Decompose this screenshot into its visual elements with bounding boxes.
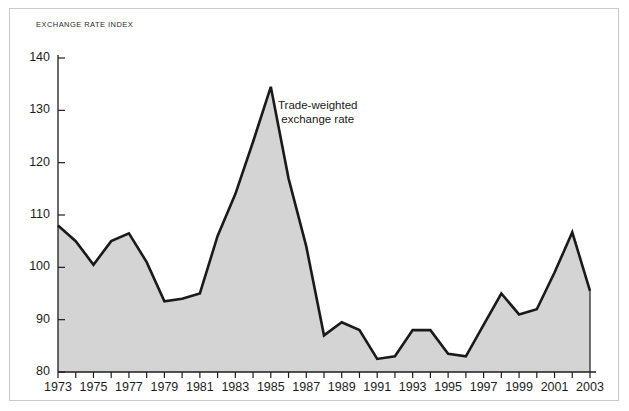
x-axis-tick-label: 1989 [322, 380, 362, 394]
plot-canvas [0, 0, 629, 411]
x-axis-tick-label: 1981 [180, 380, 220, 394]
exchange-rate-chart: EXCHANGE RATE INDEX 80901001101201301401… [0, 0, 629, 411]
y-axis-tick-label: 80 [22, 364, 50, 378]
x-axis-tick-label: 1991 [357, 380, 397, 394]
y-axis-tick-label: 110 [22, 207, 50, 221]
x-axis-tick-label: 1985 [251, 380, 291, 394]
y-axis-tick-label: 90 [22, 312, 50, 326]
x-axis-tick-label: 1993 [393, 380, 433, 394]
x-axis-tick-label: 1995 [428, 380, 468, 394]
x-axis-tick-label: 1973 [38, 380, 78, 394]
series-annotation-label: Trade-weighted exchange rate [278, 99, 357, 126]
x-axis-tick-label: 1987 [286, 380, 326, 394]
x-axis-tick-label: 1977 [109, 380, 149, 394]
x-axis-tick-label: 2003 [570, 380, 610, 394]
y-axis-tick-label: 130 [22, 102, 50, 116]
x-axis-tick-label: 2001 [535, 380, 575, 394]
x-axis-tick-label: 1979 [144, 380, 184, 394]
y-axis-title: EXCHANGE RATE INDEX [36, 20, 133, 29]
y-axis-tick-label: 140 [22, 50, 50, 64]
x-axis-tick-label: 1999 [499, 380, 539, 394]
x-axis-tick-label: 1997 [464, 380, 504, 394]
y-axis-tick-label: 120 [22, 155, 50, 169]
x-axis-tick-label: 1983 [215, 380, 255, 394]
y-axis-tick-label: 100 [22, 259, 50, 273]
x-axis-tick-label: 1975 [73, 380, 113, 394]
